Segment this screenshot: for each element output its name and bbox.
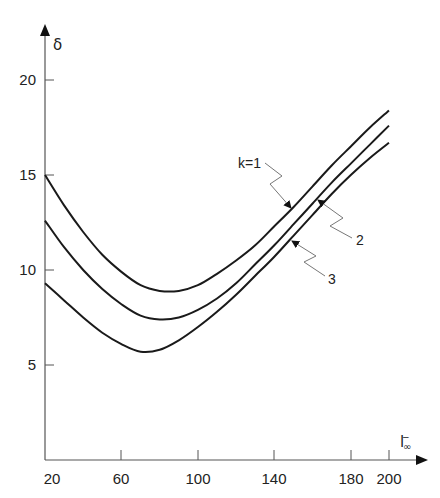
curves: [45, 110, 389, 352]
y-tick-label: 20: [19, 71, 36, 88]
curve-series-1: [45, 110, 389, 291]
y-tick-label: 15: [19, 166, 36, 183]
chart: 20 15 10 5 20 60 100 140 180 200 δ l – ∞…: [0, 0, 440, 498]
x-tick-label: 140: [261, 470, 286, 487]
x-axis-title: l – ∞: [400, 431, 411, 452]
y-axis-arrow-icon: [40, 24, 50, 36]
x-tick-label: 20: [44, 470, 61, 487]
y-tick-label: 5: [28, 356, 36, 373]
x-axis-title-sub: ∞: [403, 441, 411, 452]
curve-series-2: [45, 126, 389, 320]
x-tick-label: 180: [338, 470, 363, 487]
x-tick-label: 200: [376, 470, 401, 487]
y-tick-label: 10: [19, 261, 36, 278]
x-axis-arrow-icon: [416, 455, 428, 465]
annotation-3: 3: [292, 241, 336, 287]
x-ticks: [121, 450, 389, 460]
x-axis: [45, 455, 428, 465]
annotation-label: k=1: [238, 155, 261, 171]
annotation-label: 3: [328, 271, 336, 287]
y-axis: [40, 24, 50, 460]
annotation-arrow-icon: [292, 241, 325, 276]
annotation-2: 2: [318, 200, 364, 248]
annotation-arrow-icon: [318, 200, 352, 238]
annotation-label: 2: [356, 232, 364, 248]
x-tick-label: 60: [113, 470, 130, 487]
x-tick-label: 100: [185, 470, 210, 487]
annotation-arrow-icon: [265, 163, 291, 208]
annotation-k1: k=1: [238, 155, 291, 208]
y-axis-title: δ: [53, 36, 62, 54]
